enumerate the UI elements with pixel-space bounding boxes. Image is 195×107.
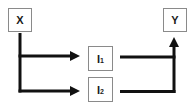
node-y-label: Y (171, 14, 178, 26)
arrowhead-to-y (169, 37, 179, 47)
node-i2: I2 (88, 77, 113, 102)
arrowhead-to-i1 (70, 51, 80, 61)
node-x-label: X (16, 14, 23, 26)
node-x: X (8, 8, 32, 32)
node-i2-subscript: 2 (100, 88, 104, 95)
node-i1: I1 (88, 46, 113, 71)
node-i1-subscript: 1 (100, 57, 104, 64)
node-y: Y (163, 8, 187, 32)
arrowhead-to-i2 (70, 86, 80, 96)
